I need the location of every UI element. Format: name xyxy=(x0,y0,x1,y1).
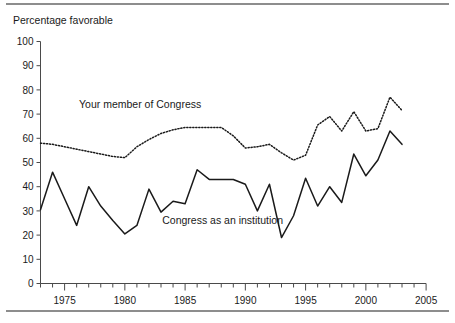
y-tick-label: 30 xyxy=(22,206,34,217)
y-axis-ticks xyxy=(37,42,41,284)
series-label-your-member-of-congress: Your member of Congress xyxy=(79,98,201,110)
y-tick-label: 20 xyxy=(22,230,34,241)
x-tick-label: 1985 xyxy=(174,295,197,306)
x-tick-label: 2000 xyxy=(355,295,378,306)
line-chart-plot: 0102030405060708090100 19751980198519901… xyxy=(0,0,455,323)
y-tick-label: 0 xyxy=(28,278,34,289)
x-tick-label: 2005 xyxy=(415,295,438,306)
x-tick-label: 1975 xyxy=(53,295,76,306)
x-tick-label: 1995 xyxy=(294,295,317,306)
x-axis-ticks xyxy=(41,284,427,291)
x-tick-label: 1980 xyxy=(114,295,137,306)
series-annotations: Your member of Congress Congress as an i… xyxy=(79,98,283,226)
x-tick-label: 1990 xyxy=(234,295,257,306)
y-tick-label: 100 xyxy=(17,36,34,47)
y-tick-label: 90 xyxy=(22,60,34,71)
y-tick-label: 10 xyxy=(22,254,34,265)
y-tick-label: 80 xyxy=(22,85,34,96)
y-tick-label: 70 xyxy=(22,109,34,120)
x-axis-tick-labels: 1975198019851990199520002005 xyxy=(53,295,437,306)
y-axis-group: 0102030405060708090100 xyxy=(17,36,41,289)
x-axis-group: 1975198019851990199520002005 xyxy=(41,284,438,306)
y-tick-label: 50 xyxy=(22,157,34,168)
series-label-congress-as-an-institution: Congress as an institution xyxy=(162,214,283,226)
y-tick-label: 60 xyxy=(22,133,34,144)
y-tick-label: 40 xyxy=(22,181,34,192)
chart-figure: Percentage favorable 0102030405060708090… xyxy=(0,0,455,323)
y-axis-tick-labels: 0102030405060708090100 xyxy=(17,36,34,289)
